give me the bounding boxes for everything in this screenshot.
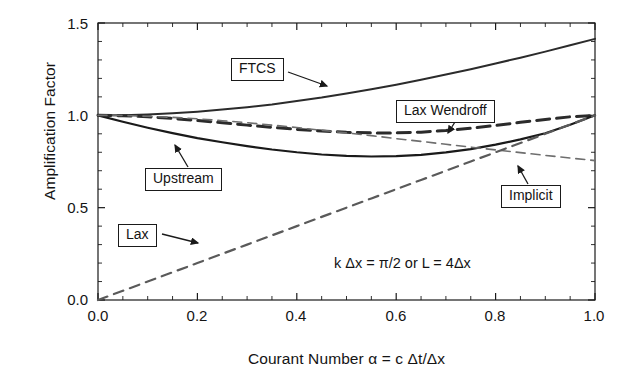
y-tick-label: 1.5 (32, 15, 88, 32)
y-tick-label: 0.0 (32, 291, 88, 308)
callout-implicit: Implicit (501, 185, 561, 208)
y-tick-label: 1.0 (32, 107, 88, 124)
x-tick-label: 0.4 (266, 307, 326, 324)
curve-ftcs (98, 39, 595, 115)
x-tick-label: 0.2 (167, 307, 227, 324)
callout-lax: Lax (118, 224, 157, 247)
callout-upstream: Upstream (145, 168, 222, 191)
x-tick-label: 0.8 (465, 307, 525, 324)
callout-ftcs: FTCS (231, 58, 284, 81)
figure-amplification-factor: Amplification Factor Courant Number α = … (0, 0, 631, 388)
x-tick-label: 0.6 (366, 307, 426, 324)
callout-lax-wendroff: Lax Wendroff (396, 100, 495, 123)
y-tick-label: 0.5 (32, 199, 88, 216)
x-tick-label: 1.0 (564, 307, 624, 324)
condition-annotation: k Δx = π/2 or L = 4Δx (334, 255, 471, 271)
callout-leader-lines (162, 72, 528, 243)
x-axis-title: Courant Number α = c Δt/Δx (98, 350, 595, 368)
x-tick-label: 0.0 (68, 307, 128, 324)
